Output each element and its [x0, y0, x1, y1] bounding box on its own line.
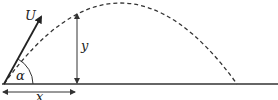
trajectory-path: [4, 3, 237, 84]
distance-label: x: [36, 89, 44, 100]
angle-label: α: [16, 68, 25, 83]
height-label: y: [80, 38, 89, 53]
velocity-label: U: [25, 8, 37, 23]
diagram-canvas: U α y x: [0, 0, 278, 100]
projectile-diagram: U α y x: [0, 0, 278, 100]
